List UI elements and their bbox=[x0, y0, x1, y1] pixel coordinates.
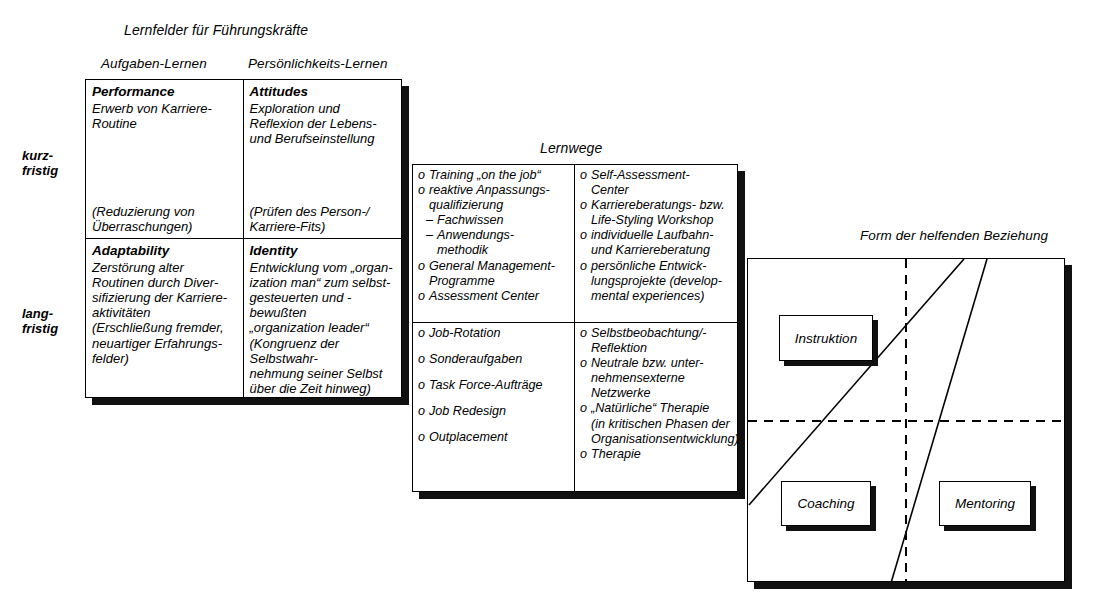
lernfelder-column-header-persoenlichkeit: Persönlichkeits-Lernen bbox=[248, 56, 388, 71]
cell-heading: Adaptability bbox=[92, 243, 238, 258]
cell-footnote: (Prüfen des Person-/ Karriere-Fits) bbox=[250, 204, 398, 234]
lernwege-list: Training „on the job“reaktive Anpassungs… bbox=[418, 168, 572, 304]
lernwege-list-item: individuelle Laufbahn- und Karriereberat… bbox=[580, 228, 735, 258]
cell-heading: Attitudes bbox=[250, 84, 397, 99]
label-text: Mentoring bbox=[955, 496, 1015, 511]
lernwege-list-item: „Natürliche“ Therapie (in kritischen Pha… bbox=[580, 401, 735, 446]
lernfelder-row-label-kurzfristig: kurz- fristig bbox=[22, 148, 82, 178]
lernwege-list-item: Outplacement bbox=[418, 430, 572, 445]
figure-canvas: Lernfelder für Führungskräfte Aufgaben-L… bbox=[0, 0, 1112, 606]
lernwege-list-item: Task Force-Aufträge bbox=[418, 378, 572, 393]
lernwege-title: Lernwege bbox=[540, 140, 602, 156]
lernwege-list-item: Fachwissen bbox=[418, 213, 572, 228]
cell-body: Entwicklung vom „organ- ization man“ zum… bbox=[250, 260, 397, 397]
lernwege-list-item: reaktive Anpassungs- qualifizierung bbox=[418, 183, 572, 213]
lernfelder-column-header-aufgaben: Aufgaben-Lernen bbox=[101, 56, 207, 71]
lernwege-list-item: Training „on the job“ bbox=[418, 168, 572, 183]
beziehung-title: Form der helfenden Beziehung bbox=[860, 228, 1048, 243]
beziehung-lines bbox=[748, 259, 1064, 581]
lernfelder-cell-identity: Identity Entwicklung vom „organ- ization… bbox=[244, 239, 402, 398]
lernwege-quadrant-top-left: Training „on the job“reaktive Anpassungs… bbox=[413, 165, 575, 323]
lernfelder-row-label-langfristig: lang- fristig bbox=[22, 306, 82, 336]
lernwege-list-item: Selbstbeobachtung/- Reflektion bbox=[580, 326, 735, 356]
lernwege-list: Job-RotationSonderaufgabenTask Force-Auf… bbox=[418, 326, 572, 445]
lernwege-quadrant-top-right: Self-Assessment- CenterKarriereberatungs… bbox=[575, 165, 737, 323]
lernfelder-table: Performance Erwerb von Karriere- Routine… bbox=[85, 79, 402, 398]
cell-heading: Identity bbox=[250, 243, 397, 258]
lernwege-list-item: Sonderaufgaben bbox=[418, 352, 572, 367]
lernwege-list-item: Karriereberatungs- bzw. Life-Styling Wor… bbox=[580, 198, 735, 228]
diagonal-line-1 bbox=[749, 259, 964, 505]
lernfelder-title: Lernfelder für Führungskräfte bbox=[124, 22, 308, 38]
beziehung-label-coaching[interactable]: Coaching bbox=[781, 481, 871, 526]
beziehung-label-instruktion[interactable]: Instruktion bbox=[779, 315, 873, 361]
lernwege-list-item: General Management- Programme bbox=[418, 259, 572, 289]
lernwege-list: Self-Assessment- CenterKarriereberatungs… bbox=[580, 168, 735, 304]
beziehung-diagram: Instruktion Coaching Mentoring bbox=[747, 258, 1065, 582]
cell-body: Erwerb von Karriere- Routine bbox=[92, 101, 238, 131]
lernwege-list-item: Assessment Center bbox=[418, 289, 572, 304]
cell-heading: Performance bbox=[92, 84, 238, 99]
beziehung-label-mentoring[interactable]: Mentoring bbox=[939, 481, 1031, 526]
lernfelder-cell-attitudes: Attitudes Exploration und Reflexion der … bbox=[244, 80, 402, 239]
lernwege-list-item: Anwendungs- methodik bbox=[418, 228, 572, 258]
lernfelder-cell-performance: Performance Erwerb von Karriere- Routine… bbox=[86, 80, 244, 239]
lernwege-quadrant-bottom-left: Job-RotationSonderaufgabenTask Force-Auf… bbox=[413, 323, 575, 491]
lernwege-quadrant-bottom-right: Selbstbeobachtung/- ReflektionNeutrale b… bbox=[575, 323, 737, 491]
lernwege-table: Training „on the job“reaktive Anpassungs… bbox=[412, 164, 738, 492]
lernfelder-cell-adaptability: Adaptability Zerstörung alter Routinen d… bbox=[86, 239, 244, 398]
cell-body: Zerstörung alter Routinen durch Diver- s… bbox=[92, 260, 238, 366]
lernwege-list-item: Neutrale bzw. unter- nehmensexterne Netz… bbox=[580, 356, 735, 401]
cell-body: Exploration und Reflexion der Lebens- un… bbox=[250, 101, 397, 147]
cell-footnote: (Reduzierung von Überraschungen) bbox=[92, 204, 239, 234]
lernwege-list-item: Self-Assessment- Center bbox=[580, 168, 735, 198]
lernwege-list-item: Job-Rotation bbox=[418, 326, 572, 341]
label-text: Coaching bbox=[797, 496, 854, 511]
lernwege-list-item: Therapie bbox=[580, 447, 735, 462]
lernwege-list: Selbstbeobachtung/- ReflektionNeutrale b… bbox=[580, 326, 735, 462]
lernwege-list-item: Job Redesign bbox=[418, 404, 572, 419]
label-text: Instruktion bbox=[795, 331, 857, 346]
lernwege-list-item: persönliche Entwick- lungsprojekte (deve… bbox=[580, 259, 735, 304]
